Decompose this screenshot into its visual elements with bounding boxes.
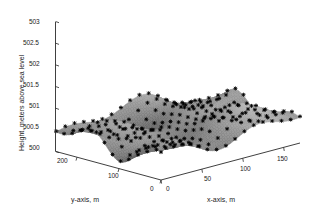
ytick-label-100: 100: [108, 173, 119, 180]
z-axis-title: Height, meters above sea level: [18, 55, 25, 151]
ztick-label-500-5: 500.5: [23, 124, 39, 131]
ytick-label-200: 200: [57, 158, 68, 165]
x-axis-title: x-axis, m: [207, 196, 235, 203]
xtick-label-100: 100: [240, 166, 251, 173]
ztick-label-503: 503: [29, 19, 40, 26]
ztick-label-500: 500: [29, 145, 40, 152]
ytick-label-0: 0: [150, 186, 154, 193]
plot-area: [0, 0, 316, 219]
surface-mesh: [0, 0, 316, 219]
ztick-label-501: 501: [29, 103, 40, 110]
ztick-label-502-5: 502.5: [23, 40, 39, 47]
y-axis-title: y-axis, m: [71, 196, 99, 203]
ztick-label-501-5: 501.5: [23, 82, 39, 89]
ztick-label-502: 502: [29, 61, 40, 68]
xtick-label-50: 50: [204, 176, 211, 183]
xtick-label-150: 150: [277, 156, 288, 163]
xtick-label-0: 0: [166, 186, 170, 193]
surface-plot-figure: 503 502.5 502 501.5 501 500.5 500 Height…: [0, 0, 316, 219]
